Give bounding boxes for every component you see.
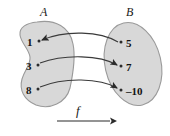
dot-a-3	[37, 64, 40, 67]
element-a-3: 3	[26, 61, 32, 72]
dot-b-neg10	[120, 89, 123, 92]
dot-b-7	[120, 65, 123, 68]
element-b-neg10: –10	[126, 86, 143, 97]
function-name-label: f	[76, 104, 80, 117]
function-direction-arrowhead	[110, 118, 117, 125]
set-label-a: A	[40, 6, 47, 18]
element-a-1: 1	[27, 37, 33, 48]
dot-b-5	[120, 41, 123, 44]
set-label-b: B	[126, 6, 133, 18]
set-b-blob	[96, 17, 169, 111]
element-b-7: 7	[126, 62, 132, 73]
element-b-5: 5	[126, 38, 132, 49]
function-mapping-figure: A B 1 3 8 5 7 –10 f	[0, 0, 170, 136]
dot-a-8	[37, 88, 40, 91]
element-a-8: 8	[26, 85, 32, 96]
dot-a-1	[38, 40, 41, 43]
